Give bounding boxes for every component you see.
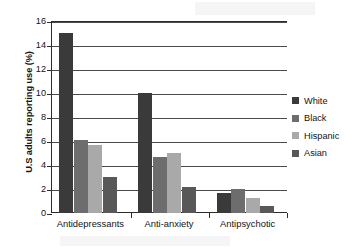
y-axis-tick-mark xyxy=(47,22,52,23)
y-axis-tick-mark xyxy=(47,142,52,143)
legend-item: Asian xyxy=(292,145,356,163)
y-axis-tick-label: 16 xyxy=(24,16,46,26)
bar xyxy=(153,157,167,213)
y-axis-tick-mark xyxy=(47,190,52,191)
bar xyxy=(217,193,231,213)
bar xyxy=(260,206,274,213)
x-axis-category-divider xyxy=(131,213,132,218)
bar-group xyxy=(138,22,196,213)
legend-swatch-icon xyxy=(292,97,299,104)
scan-artifact xyxy=(195,2,315,15)
bar xyxy=(103,177,117,213)
plot-area xyxy=(51,21,287,213)
y-axis-tick-label: 12 xyxy=(24,64,46,74)
x-axis-category-label: Antipsychotic xyxy=(220,218,275,229)
bar xyxy=(231,189,245,213)
bar xyxy=(88,145,102,213)
y-axis-tick-label: 6 xyxy=(24,136,46,146)
legend-label: White xyxy=(304,96,328,106)
y-axis-tick-label: 4 xyxy=(24,160,46,170)
legend-swatch-icon xyxy=(292,115,299,122)
scan-artifact xyxy=(60,236,230,246)
y-axis-tick-label: 14 xyxy=(24,40,46,50)
bar-chart-figure: U.S adults reporting use (%) 02468101214… xyxy=(0,0,357,249)
legend-item: Hispanic xyxy=(292,127,356,145)
legend-label: Black xyxy=(304,113,326,123)
y-axis-tick-label: 8 xyxy=(24,112,46,122)
x-axis-end-tick xyxy=(287,213,288,218)
y-axis-tick-mark xyxy=(47,70,52,71)
legend-item: White xyxy=(292,92,356,110)
bar xyxy=(246,198,260,213)
legend-swatch-icon xyxy=(292,132,299,139)
chart-legend: WhiteBlackHispanicAsian xyxy=(292,92,356,162)
x-axis-category-label: Antidepressants xyxy=(57,218,124,229)
bar xyxy=(167,153,181,213)
y-axis-tick-mark xyxy=(47,166,52,167)
bar-group xyxy=(217,22,275,213)
x-axis-category-label: Anti-anxiety xyxy=(145,218,194,229)
y-axis-tick-mark xyxy=(47,94,52,95)
y-axis-tick-mark xyxy=(47,214,52,215)
legend-label: Asian xyxy=(304,148,327,158)
y-axis-tick-mark xyxy=(47,118,52,119)
y-axis-tick-label: 2 xyxy=(24,184,46,194)
y-axis-tick-label: 10 xyxy=(24,88,46,98)
bar-group xyxy=(59,22,117,213)
bar xyxy=(182,187,196,213)
legend-item: Black xyxy=(292,110,356,128)
y-axis-tick-labels: 0246810121416 xyxy=(22,0,46,249)
bar xyxy=(59,33,73,213)
y-axis-tick-mark xyxy=(47,46,52,47)
y-axis-tick-label: 0 xyxy=(24,208,46,218)
legend-swatch-icon xyxy=(292,150,299,157)
bar xyxy=(138,93,152,213)
x-axis-category-divider xyxy=(209,213,210,218)
legend-label: Hispanic xyxy=(304,131,339,141)
bar xyxy=(74,140,88,213)
